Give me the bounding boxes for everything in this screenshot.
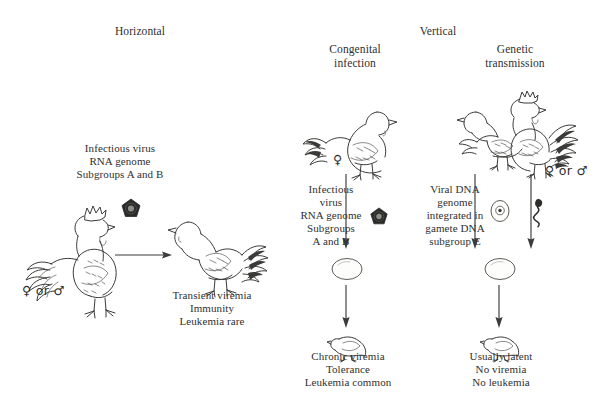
egg-genetic-icon — [483, 256, 517, 282]
heading-horizontal: Horizontal — [80, 25, 200, 39]
horizontal-source-sex-symbol: ♀ or ♂ — [22, 283, 65, 298]
horizontal-agent-label: Infectious virus RNA genome Subgroups A … — [30, 142, 210, 181]
horizontal-outcome-label: Transient viremia Immunity Leukemia rare — [142, 289, 282, 328]
virus-particle-icon-horizontal — [120, 198, 142, 220]
genetic-ovum-arrow — [469, 174, 481, 250]
chicken-recipient-illustration — [164, 208, 260, 296]
congenital-source-sex-symbol: ♀ — [333, 152, 342, 167]
ovum-icon — [489, 199, 511, 223]
genetic-agent-label: Viral DNA genome integrated in gamete DN… — [410, 183, 500, 248]
virus-particle-icon-congenital — [369, 207, 389, 227]
heading-vertical: Vertical — [378, 25, 498, 39]
congenital-agent-label: Infectious virus RNA genome Subgroups A … — [287, 183, 375, 248]
diagram-canvas: Horizontal Vertical Congenital infection… — [0, 0, 599, 408]
genetic-outcome-label: Usually latent No viremia No leukemia — [440, 350, 562, 389]
congenital-outcome-label: Chronic viremia Tolerance Leukemia commo… — [282, 350, 414, 389]
egg-congenital-icon — [330, 256, 364, 282]
hen-rooster-pair-illustration — [456, 90, 584, 174]
genetic-source-sex-symbol: ♀ or ♂ — [545, 163, 588, 178]
heading-genetic-transmission: Genetic transmission — [460, 43, 570, 70]
sperm-icon — [529, 198, 547, 228]
heading-congenital-infection: Congenital infection — [300, 43, 410, 70]
hen-congenital-illustration — [303, 100, 399, 172]
congenital-hatch-arrow — [340, 285, 352, 329]
genetic-hatch-arrow — [493, 285, 505, 329]
